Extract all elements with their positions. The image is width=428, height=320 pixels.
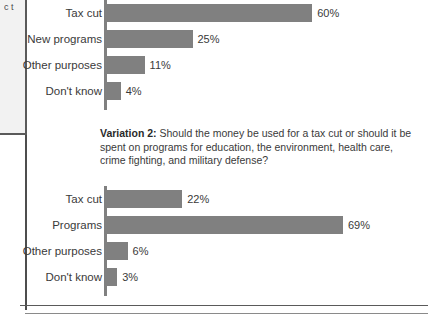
variation-2-label: Variation 2: (100, 127, 157, 139)
bar-category-label: New programs (27, 26, 102, 52)
bar-track: 11% (107, 56, 145, 74)
bar-value-label: 3% (122, 268, 138, 286)
bar-track: 6% (107, 242, 128, 260)
bar-category-label: Other purposes (23, 52, 102, 78)
bar-category-label: Don't know (45, 264, 102, 290)
bar-category-label: Tax cut (66, 0, 102, 26)
bar-value-label: 69% (348, 216, 370, 234)
bar-category-label: Programs (52, 212, 102, 238)
bar-value-label: 22% (187, 190, 209, 208)
bar-fill (107, 56, 145, 74)
bar-value-label: 25% (198, 30, 220, 48)
bar-fill (107, 216, 343, 234)
bar-value-label: 11% (150, 56, 171, 74)
bar-track: 60% (107, 4, 312, 22)
chart-row: Tax cut22% (0, 186, 428, 212)
bar-fill (107, 4, 312, 22)
chart-row: New programs25% (0, 26, 428, 52)
page-bottom-rule (20, 305, 428, 306)
bar-category-label: Other purposes (23, 238, 102, 264)
bar-chart-variation-2: Tax cut22%Programs69%Other purposes6%Don… (0, 186, 428, 290)
chart-2-rows: Tax cut22%Programs69%Other purposes6%Don… (0, 186, 428, 290)
chart-1-rows: Tax cut60%New programs25%Other purposes1… (0, 0, 428, 104)
bar-category-label: Tax cut (66, 186, 102, 212)
bar-fill (107, 82, 121, 100)
bar-fill (107, 268, 117, 286)
page-bottom-rule-secondary (25, 313, 428, 314)
bar-value-label: 4% (126, 82, 142, 100)
bar-chart-variation-1: Tax cut60%New programs25%Other purposes1… (0, 0, 428, 104)
bar-fill (107, 242, 128, 260)
chart-row: Other purposes6% (0, 238, 428, 264)
bar-fill (107, 30, 193, 48)
bar-track: 22% (107, 190, 182, 208)
bar-track: 4% (107, 82, 121, 100)
bar-track: 3% (107, 268, 117, 286)
bar-track: 69% (107, 216, 343, 234)
bar-value-label: 6% (133, 242, 149, 260)
chart-row: Other purposes11% (0, 52, 428, 78)
bar-category-label: Don't know (45, 78, 102, 104)
bar-track: 25% (107, 30, 193, 48)
chart-row: Don't know4% (0, 78, 428, 104)
bar-fill (107, 190, 182, 208)
chart-row: Programs69% (0, 212, 428, 238)
variation-2-caption: Variation 2: Should the money be used fo… (100, 127, 418, 168)
chart-row: Tax cut60% (0, 0, 428, 26)
bar-value-label: 60% (317, 4, 339, 22)
chart-row: Don't know3% (0, 264, 428, 290)
